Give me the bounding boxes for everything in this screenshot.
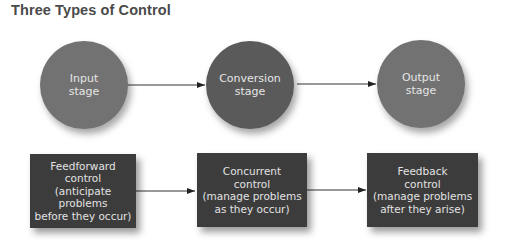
feedforward-control-label: Feedforward control (anticipate problems… bbox=[30, 160, 136, 223]
feedback-control-label: Feedback control (manage problems after … bbox=[373, 165, 472, 215]
input-stage-node: Input stage bbox=[40, 41, 128, 129]
output-stage-node: Output stage bbox=[377, 40, 465, 128]
input-stage-label: Input stage bbox=[69, 72, 100, 98]
feedback-control-box: Feedback control (manage problems after … bbox=[367, 153, 478, 227]
concurrent-control-label: Concurrent control (manage problems as t… bbox=[202, 165, 301, 215]
feedforward-control-box: Feedforward control (anticipate problems… bbox=[30, 154, 136, 228]
conversion-stage-label: Conversion stage bbox=[219, 72, 281, 98]
concurrent-control-box: Concurrent control (manage problems as t… bbox=[197, 153, 307, 227]
conversion-stage-node: Conversion stage bbox=[206, 41, 294, 129]
output-stage-label: Output stage bbox=[402, 71, 440, 97]
